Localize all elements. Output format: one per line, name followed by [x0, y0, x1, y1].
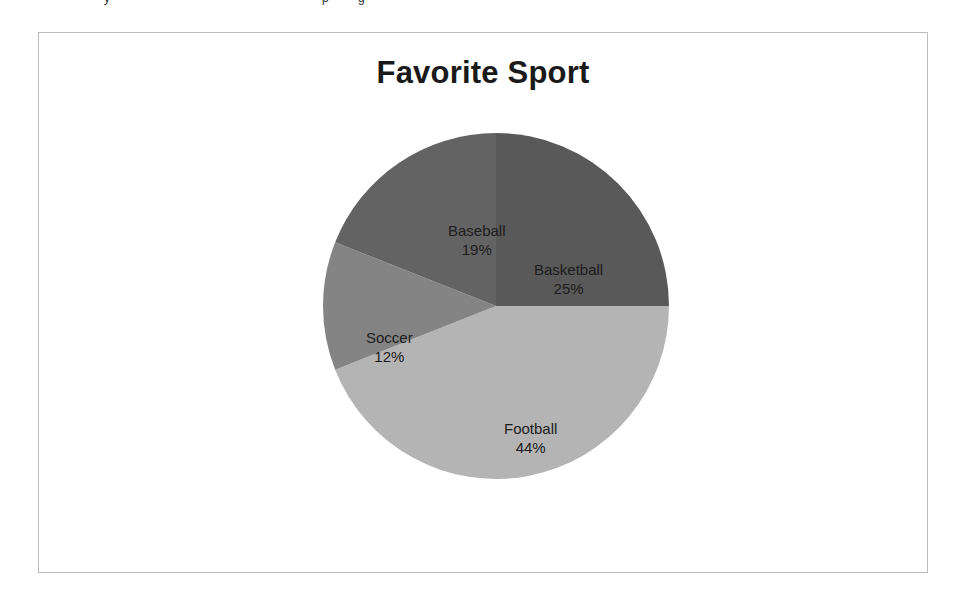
pie-slice-basketball [496, 133, 669, 306]
pie-slice-group [323, 133, 669, 479]
clipped-text-fragment: g [358, 0, 365, 5]
clipped-text-above-figure: ypg [0, 0, 955, 14]
clipped-text-fragment: y [104, 0, 110, 5]
chart-frame: Favorite Sport Basketball25%Football44%S… [38, 32, 928, 573]
pie-chart: Basketball25%Football44%Soccer12%Basebal… [321, 131, 671, 481]
clipped-text-fragment: p [322, 0, 329, 5]
pie-svg [321, 131, 671, 481]
chart-title: Favorite Sport [39, 55, 927, 91]
